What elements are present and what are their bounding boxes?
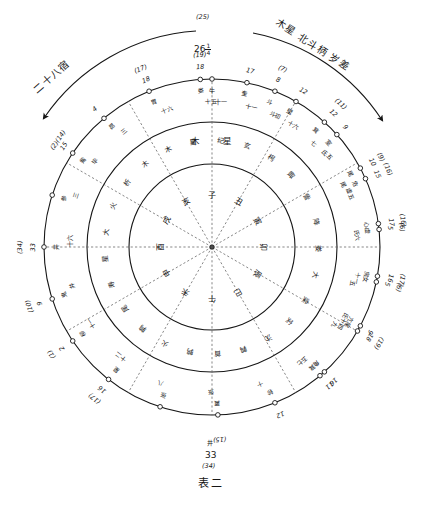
outer-mansion-number: 33 [30,243,37,251]
middle-ring-highlight-label: 木 [191,137,200,146]
outer-mansion-paren: (6) [398,222,405,232]
diagram-svg [0,0,423,508]
mansion-tick [375,274,380,279]
inner-ring-label: 子 [208,192,216,200]
middle-ring-label: 星 [103,255,111,263]
mansion-tick [294,99,299,104]
mansion-tick [210,77,215,82]
left-arc-arrow [44,31,196,118]
bottom-paren-label: (34) [202,463,215,470]
outer-mansion-degree: 五 [349,280,356,287]
mansion-tick [374,280,379,285]
bottom-value-label: 33 [205,451,216,460]
inner-ring-label: 卯 [259,243,267,251]
middle-ring-label: 降 [311,218,319,226]
inner-ring-label: 酉 [157,243,165,251]
mansion-tick [273,89,278,94]
mansion-tick [335,132,340,137]
mansion-tick [358,324,363,329]
outer-mansion-name: 娄 [198,88,204,94]
middle-ring-label: 娄 [314,245,321,252]
mansion-tick [376,221,381,226]
mansion-tick [318,373,323,378]
middle-ring-label: 大 [103,228,111,236]
mansion-tick [50,297,55,302]
mansion-tick [50,193,55,198]
mansion-tick [198,77,203,82]
outer-mansion-name: 翼 [214,400,220,406]
outer-mansion-paren: (6) [394,282,402,292]
outer-mansion-paren: (34) [17,241,24,254]
outer-mansion-paren: (15) [213,436,227,443]
figure-canvas: 二十八宿 木星 北斗柄 岁差 (25) 2614 井 33 (34) 表二 子丑… [0,0,423,508]
mansion-tick [322,370,327,375]
mansion-tick [273,400,278,405]
inner-ring-label: 午 [208,294,216,302]
mansion-tick [102,116,107,121]
mansion-tick [363,176,368,181]
outer-mansion-degree: 张 [208,389,214,395]
figure-caption: 表二 [198,478,224,489]
mansion-tick [355,329,360,334]
mansion-tick [358,166,363,171]
mansion-tick [216,413,221,418]
outer-mansion-number: 18 [196,64,205,71]
outer-mansion-degree: 六 [353,235,360,242]
middle-ring-label: 首 [214,349,221,356]
outer-mansion-name: 牛 [209,88,215,94]
middle-ring-label: 鹑 [239,344,248,353]
mansion-tick [42,245,47,250]
mansion-tick [70,339,75,344]
outer-mansion-degree: 十五 [205,99,217,106]
mansion-tick [158,404,163,409]
spoke-60 [212,163,357,247]
mansion-tick [106,377,111,382]
outer-mansion-name: 虚 [364,227,371,234]
mansion-tick [245,80,250,85]
radial-spokes-group [44,79,380,415]
outer-mansion-paren: (19) [192,52,206,59]
outer-mansion-name: 参 [60,195,68,203]
spoke-300 [67,163,212,247]
outer-mansion-degree: 十六 [67,235,73,247]
outer-mansion-name: 井 [53,244,59,250]
mansion-tick [147,89,152,94]
mansion-tick [322,120,327,125]
mansion-tick [70,151,75,156]
mansion-tick [377,227,382,232]
top-paren-label: (25) [196,14,209,21]
middle-ring-highlight-label: 星 [223,137,232,146]
